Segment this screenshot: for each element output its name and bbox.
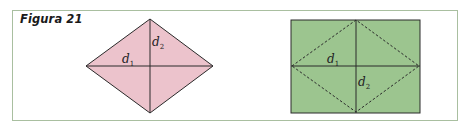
rhombus-figure: d1 d2 [86, 19, 213, 113]
rectangle-figure: d1 d2 [291, 20, 420, 113]
figure-canvas: d1 d2 d1 d2 [0, 0, 474, 130]
